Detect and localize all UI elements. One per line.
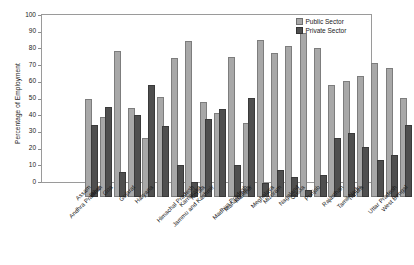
bar-group	[142, 30, 156, 197]
bar-group	[314, 30, 328, 197]
bar-group	[214, 30, 228, 197]
y-tick-label: 40	[29, 111, 36, 118]
chart-legend: Public Sector Private Sector	[296, 17, 346, 35]
y-tick-label: 30	[29, 127, 36, 134]
x-axis-label: Tripura	[347, 184, 365, 202]
bar-group	[171, 30, 185, 197]
bar-public-sector	[257, 40, 264, 197]
bar-series-container	[84, 30, 413, 197]
bar-group	[271, 30, 285, 197]
plot-area	[41, 14, 372, 183]
bar-group	[100, 30, 114, 197]
bar-public-sector	[185, 41, 192, 197]
bar-group	[200, 30, 214, 197]
bar-group	[386, 30, 400, 197]
bar-public-sector	[300, 33, 307, 197]
bar-group	[300, 30, 314, 197]
bar-private-sector	[148, 85, 155, 197]
bar-group	[343, 30, 357, 197]
x-axis-label: Haryana	[133, 184, 154, 205]
bar-group	[128, 30, 142, 197]
legend-label-private: Private Sector	[306, 26, 347, 35]
y-tick-label: 60	[29, 77, 36, 84]
bar-private-sector	[248, 98, 255, 197]
x-axis-label: Punjab	[304, 184, 322, 202]
bar-group	[185, 30, 199, 197]
bar-private-sector	[377, 160, 384, 197]
legend-swatch-public-icon	[296, 18, 303, 25]
bar-group	[400, 30, 414, 197]
y-tick-label: 50	[29, 94, 36, 101]
x-axis-label: Himachal Pradesh	[156, 184, 195, 223]
y-tick-label: 100	[25, 11, 36, 18]
y-tick-label: 70	[29, 61, 36, 68]
bar-group	[257, 30, 271, 197]
bar-public-sector	[285, 46, 292, 197]
bar-group	[85, 30, 99, 197]
x-axis-label: Goa	[101, 184, 113, 196]
y-tick-label: 10	[29, 161, 36, 168]
bar-group	[243, 30, 257, 197]
y-tick-label: 20	[29, 144, 36, 151]
y-tick-label: 80	[29, 44, 36, 51]
x-axis-labels: Andhra PradeshAssamBiharGoaGujaratHaryan…	[42, 184, 371, 264]
bar-group	[285, 30, 299, 197]
bar-group	[228, 30, 242, 197]
bar-group	[114, 30, 128, 197]
legend-item-private: Private Sector	[296, 26, 346, 35]
legend-label-public: Public Sector	[306, 17, 344, 26]
legend-swatch-private-icon	[296, 27, 303, 34]
bar-group	[328, 30, 342, 197]
legend-item-public: Public Sector	[296, 17, 346, 26]
bar-group	[357, 30, 371, 197]
y-tick-label: 90	[29, 27, 36, 34]
y-axis-ticks: 0102030405060708090100	[0, 0, 41, 183]
bar-group	[371, 30, 385, 197]
bar-group	[157, 30, 171, 197]
y-tick-label: 0	[32, 178, 36, 185]
